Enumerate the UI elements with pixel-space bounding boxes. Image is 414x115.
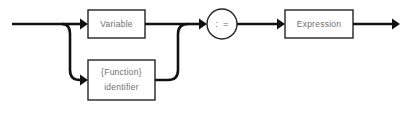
node-variable-label: Variable (100, 19, 133, 29)
node-expression[interactable]: Expression (285, 10, 353, 38)
rail-function-to-merge (155, 24, 188, 80)
node-assign-operator-label: : = (216, 19, 230, 29)
arrowhead-into-variable (80, 18, 88, 29)
node-assign-operator[interactable]: : = (207, 9, 237, 39)
arrowhead-into-expression (277, 18, 285, 29)
node-expression-label: Expression (297, 19, 342, 29)
node-variable[interactable]: Variable (88, 10, 145, 38)
syntax-diagram: Variable {Function} identifier : = Expre… (0, 0, 414, 115)
arrowhead-exit (392, 18, 400, 29)
arrowhead-into-operator (199, 18, 207, 29)
node-function-identifier-label-line2: identifier (104, 82, 139, 92)
arrowhead-into-function (80, 74, 88, 85)
node-function-identifier[interactable]: {Function} identifier (88, 60, 155, 100)
node-function-identifier-label-line1: {Function} (101, 67, 142, 77)
rail-branch-to-function (62, 24, 80, 80)
railroad-diagram-canvas: Variable {Function} identifier : = Expre… (0, 0, 414, 115)
